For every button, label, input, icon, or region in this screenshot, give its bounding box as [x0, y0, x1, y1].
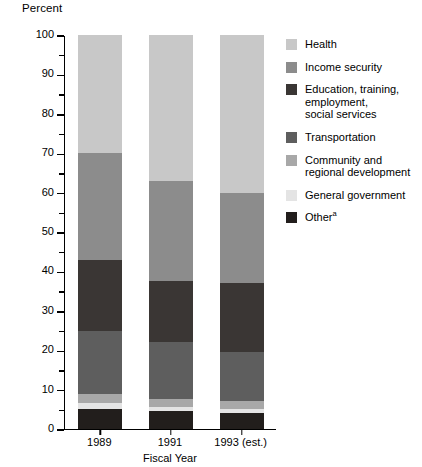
x-axis-tick	[241, 429, 242, 435]
bar-segment[interactable]	[78, 260, 122, 331]
bar-segment[interactable]	[220, 193, 264, 284]
y-axis-tick-label: 70	[42, 146, 54, 158]
y-axis-tick-label: 0	[48, 422, 54, 434]
legend-item-label: Health	[305, 38, 337, 51]
y-tick-line	[57, 272, 64, 273]
bar-segment[interactable]	[149, 399, 193, 407]
legend-item-label: Education, training, employment, social …	[305, 83, 399, 121]
y-tick-line	[57, 114, 64, 115]
legend-color-swatch	[286, 84, 297, 95]
y-tick-line	[57, 311, 64, 312]
legend-item[interactable]: Income security	[286, 61, 422, 74]
legend-color-swatch	[286, 39, 297, 50]
legend-item-label: Community and regional development	[305, 154, 410, 179]
y-axis-tick-label: 100	[36, 28, 54, 40]
y-tick-line	[57, 75, 64, 76]
legend-footnote-marker: a	[333, 210, 337, 219]
legend-item-label: Income security	[305, 61, 382, 74]
bar-segment[interactable]	[78, 153, 122, 259]
bar-segment[interactable]	[149, 411, 193, 429]
bar-segment[interactable]	[220, 401, 264, 409]
bar-segment[interactable]	[78, 331, 122, 394]
legend-color-swatch	[286, 190, 297, 201]
y-axis-tick-label: 60	[42, 186, 54, 198]
legend-item[interactable]: Othera	[286, 211, 422, 224]
bar-segment[interactable]	[78, 35, 122, 153]
y-tick-line	[57, 35, 64, 36]
bar-segment[interactable]	[78, 394, 122, 404]
bar-segment[interactable]	[149, 281, 193, 342]
legend-color-swatch	[286, 212, 297, 223]
legend-item-label: Othera	[305, 211, 337, 224]
bar-segment[interactable]	[149, 342, 193, 399]
y-axis-tick-label: 90	[42, 67, 54, 79]
x-axis-tick	[100, 429, 101, 435]
x-axis-tick	[170, 429, 171, 435]
legend-item[interactable]: Health	[286, 38, 422, 51]
legend-color-swatch	[286, 62, 297, 73]
y-tick-line	[57, 351, 64, 352]
legend-item[interactable]: Education, training, employment, social …	[286, 83, 422, 121]
plot-area	[64, 36, 276, 430]
y-tick-line	[57, 193, 64, 194]
x-axis-title: Fiscal Year	[64, 452, 276, 464]
bar-1991[interactable]	[149, 35, 193, 429]
y-axis-tick-label: 20	[42, 343, 54, 355]
bar-1993-est-[interactable]	[220, 35, 264, 429]
legend-item[interactable]: Transportation	[286, 131, 422, 144]
y-axis-tick-label: 80	[42, 107, 54, 119]
y-axis-tick-label: 30	[42, 304, 54, 316]
bar-segment[interactable]	[220, 283, 264, 352]
bar-segment[interactable]	[220, 352, 264, 401]
bar-segment[interactable]	[78, 409, 122, 429]
legend-color-swatch	[286, 155, 297, 166]
y-tick-line	[57, 390, 64, 391]
y-axis-tick-label: 40	[42, 264, 54, 276]
legend-color-swatch	[286, 132, 297, 143]
legend-item-label: Transportation	[305, 131, 376, 144]
legend-item-label: General government	[305, 189, 405, 202]
y-axis-tick-label: 10	[42, 383, 54, 395]
y-axis: 0102030405060708090100	[0, 0, 64, 467]
y-tick-line	[57, 154, 64, 155]
bar-segment[interactable]	[149, 35, 193, 181]
x-axis-tick-label: 1993 (est.)	[181, 436, 301, 448]
legend-item[interactable]: Community and regional development	[286, 154, 422, 179]
y-tick-line	[57, 429, 64, 430]
bar-segment[interactable]	[220, 413, 264, 429]
y-tick-line	[57, 232, 64, 233]
legend-item[interactable]: General government	[286, 189, 422, 202]
bar-segment[interactable]	[220, 35, 264, 193]
y-axis-tick-label: 50	[42, 225, 54, 237]
chart-legend: HealthIncome securityEducation, training…	[286, 38, 422, 234]
bar-1989[interactable]	[78, 35, 122, 429]
bar-segment[interactable]	[149, 181, 193, 281]
